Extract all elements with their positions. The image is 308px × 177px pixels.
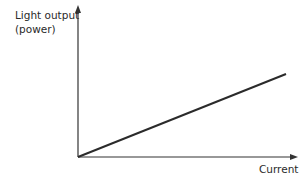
x-axis-arrow-icon bbox=[290, 154, 298, 160]
y-axis-label-line1: Light output bbox=[15, 8, 79, 22]
x-axis-label: Current bbox=[259, 162, 298, 176]
data-line bbox=[78, 74, 286, 157]
y-axis-label-line2: (power) bbox=[15, 22, 56, 36]
